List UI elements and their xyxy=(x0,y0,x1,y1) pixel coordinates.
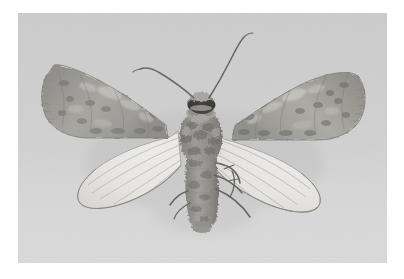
photo-tone-overlay xyxy=(18,13,387,263)
page-root: moth xyxy=(0,0,404,279)
moth-photo-canvas xyxy=(18,13,387,263)
moth-specimen-photograph xyxy=(18,13,387,263)
